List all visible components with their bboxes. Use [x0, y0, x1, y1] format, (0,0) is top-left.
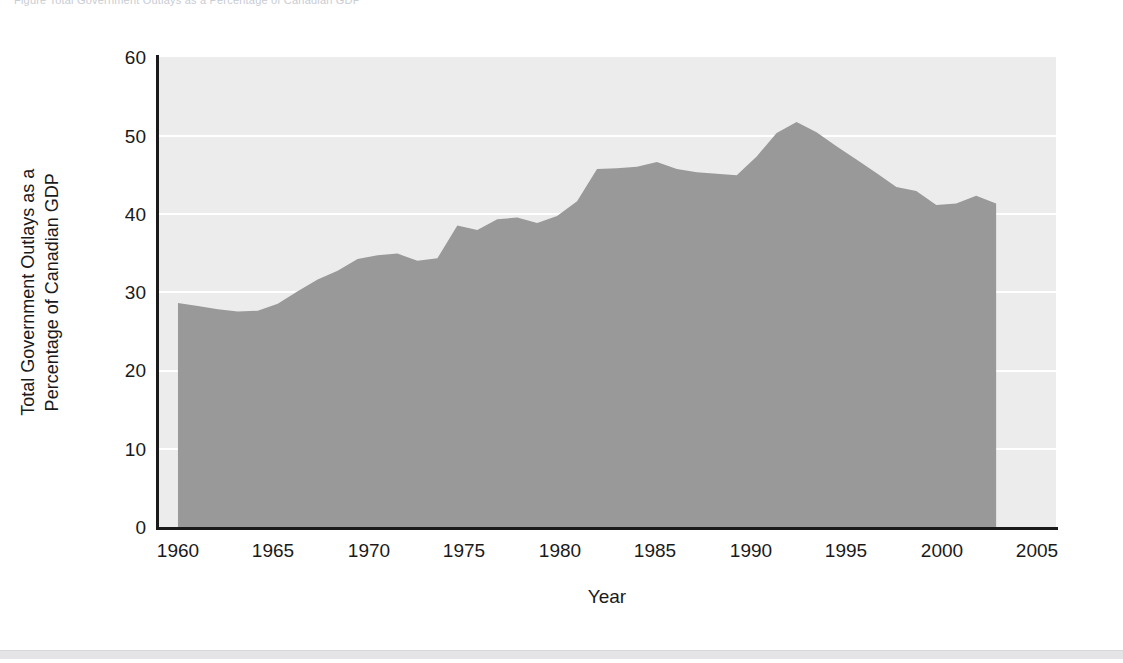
x-tick-label-1975: 1975	[429, 541, 499, 560]
area-series-fill	[178, 122, 996, 527]
page-divider	[0, 650, 1123, 659]
y-tick-label-0: 0	[102, 518, 146, 537]
x-axis-line	[156, 527, 1058, 530]
y-tick-label-30: 30	[102, 283, 146, 302]
y-tick-label-60: 60	[102, 48, 146, 67]
y-tick-label-40: 40	[102, 205, 146, 224]
y-axis-title: Total Government Outlays as a Percentage…	[16, 132, 65, 452]
x-tick-label-1965: 1965	[238, 541, 308, 560]
x-tick-label-1960: 1960	[143, 541, 213, 560]
y-tick-label-10: 10	[102, 440, 146, 459]
area-chart: 0 10 20 30 40 50 60 1960 1965 1970 1975 …	[0, 0, 1123, 650]
y-axis-line	[156, 55, 159, 529]
y-tick-label-20: 20	[102, 361, 146, 380]
x-tick-label-2000: 2000	[907, 541, 977, 560]
x-tick-label-2005: 2005	[1002, 541, 1072, 560]
y-tick-label-50: 50	[102, 127, 146, 146]
area-series	[158, 57, 1056, 527]
x-tick-label-1990: 1990	[716, 541, 786, 560]
figure-page: Figure Total Government Outlays as a Per…	[0, 0, 1123, 663]
x-tick-label-1970: 1970	[334, 541, 404, 560]
x-tick-label-1985: 1985	[620, 541, 690, 560]
x-axis-title: Year	[158, 586, 1056, 608]
y-axis-title-line2: Percentage of Canadian GDP	[40, 132, 64, 452]
x-tick-label-1995: 1995	[811, 541, 881, 560]
y-axis-title-line1: Total Government Outlays as a	[16, 132, 40, 452]
x-tick-label-1980: 1980	[525, 541, 595, 560]
